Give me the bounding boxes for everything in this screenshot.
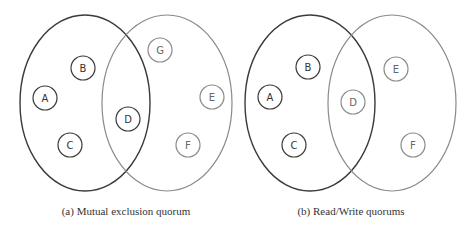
node-label: D <box>349 97 357 108</box>
node-c: C <box>58 133 82 157</box>
node-d: D <box>341 90 365 114</box>
node-label: F <box>410 140 416 151</box>
node-b: B <box>71 56 95 80</box>
node-label: D <box>124 114 132 125</box>
node-f: F <box>401 133 425 157</box>
node-f: F <box>176 133 200 157</box>
figure-a: ABCDGEF <box>20 15 232 191</box>
node-label: E <box>393 64 399 75</box>
node-label: B <box>80 63 87 74</box>
node-label: C <box>67 140 74 151</box>
node-label: A <box>267 92 274 103</box>
node-c: C <box>282 133 306 157</box>
node-label: B <box>305 62 312 73</box>
node-d: D <box>116 107 140 131</box>
write-quorum-ellipse <box>328 15 456 191</box>
node-e: E <box>384 57 408 81</box>
caption-read-write: (b) Read/Write quorums <box>297 205 404 217</box>
node-label: E <box>209 92 215 103</box>
node-label: G <box>156 45 164 56</box>
node-e: E <box>200 85 224 109</box>
node-a: A <box>258 85 282 109</box>
node-b: B <box>296 55 320 79</box>
node-a: A <box>33 86 57 110</box>
node-label: F <box>185 140 191 151</box>
caption-mutual-exclusion: (a) Mutual exclusion quorum <box>62 205 191 217</box>
figure-b: ABCDEF <box>245 15 456 191</box>
node-label: A <box>42 93 49 104</box>
quorum-1-ellipse <box>20 15 150 191</box>
quorum-diagram: ABCDGEFABCDEF <box>0 0 475 232</box>
node-label: C <box>291 140 298 151</box>
node-g: G <box>148 38 172 62</box>
quorum-2-ellipse <box>102 15 232 191</box>
